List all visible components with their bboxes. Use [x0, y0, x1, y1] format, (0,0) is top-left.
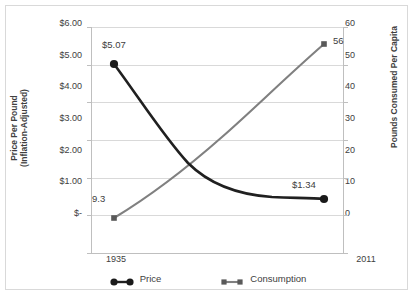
y-left-tick-0: $-: [38, 208, 82, 218]
chart-legend: Price Consumption: [0, 268, 415, 288]
price-end-label: $1.34: [292, 179, 316, 190]
y-left-tick-1: $1.00: [38, 176, 82, 186]
price-marker-start: [110, 60, 118, 68]
legend-item-price[interactable]: Price: [109, 273, 162, 284]
y-left-tick-3: $3.00: [38, 113, 82, 123]
tickmark-left-0: [87, 253, 91, 254]
tickmark-left-4: [87, 102, 91, 103]
x-axis-tick-1935: 1935: [86, 254, 146, 264]
consumption-series-icon: [219, 273, 245, 283]
x-axis-tick-2011: 2011: [336, 254, 396, 264]
y-right-tick-40: 40: [345, 81, 375, 91]
consumption-start-label: 9.3: [92, 193, 105, 204]
y-axis-left-title-line2: (Inflation-Adjusted): [19, 53, 29, 203]
y-right-tick-50: 50: [345, 50, 375, 60]
consumption-marker-end: [321, 41, 327, 47]
consumption-marker-start: [111, 215, 117, 221]
y-axis-right-title: Pounds Consumed Per Capita: [389, 12, 399, 162]
tickmark-right-10: [344, 215, 348, 216]
tickmark-right-50: [344, 65, 348, 66]
price-marker-end: [320, 195, 328, 203]
y-right-tick-0: 0: [345, 208, 375, 218]
tickmark-right-30: [344, 140, 348, 141]
chart-frame: Price Per Pound (Inflation-Adjusted) Pou…: [5, 5, 408, 290]
tickmark-left-1: [87, 215, 91, 216]
y-right-tick-10: 10: [345, 176, 375, 186]
price-series-icon: [109, 273, 135, 283]
plot-area: $5.07 $1.34 9.3 56: [92, 27, 343, 253]
consumption-end-label: 56: [333, 35, 344, 46]
legend-label-price: Price: [140, 273, 162, 284]
tickmark-right-0: [344, 253, 348, 254]
consumption-line: [114, 44, 324, 218]
tickmark-left-3: [87, 140, 91, 141]
tickmark-right-20: [344, 178, 348, 179]
y-axis-left-title-line1: Price Per Pound: [9, 53, 19, 203]
x-axis-line: [91, 253, 344, 254]
y-left-tick-5: $5.00: [38, 50, 82, 60]
y-left-tick-6: $6.00: [38, 18, 82, 28]
y-right-tick-60: 60: [345, 18, 375, 28]
y-left-tick-4: $4.00: [38, 81, 82, 91]
tickmark-right-40: [344, 102, 348, 103]
y-left-tick-2: $2.00: [38, 145, 82, 155]
legend-label-consumption: Consumption: [250, 273, 306, 284]
y-axis-left-title: Price Per Pound (Inflation-Adjusted): [9, 53, 29, 203]
tickmark-left-6: [87, 27, 91, 28]
price-start-label: $5.07: [102, 39, 126, 50]
tickmark-left-5: [87, 65, 91, 66]
tickmark-right-60: [344, 27, 348, 28]
series-lines: [92, 27, 343, 253]
y-right-tick-20: 20: [345, 145, 375, 155]
tickmark-left-2: [87, 178, 91, 179]
y-right-tick-30: 30: [345, 113, 375, 123]
legend-item-consumption[interactable]: Consumption: [219, 273, 306, 284]
